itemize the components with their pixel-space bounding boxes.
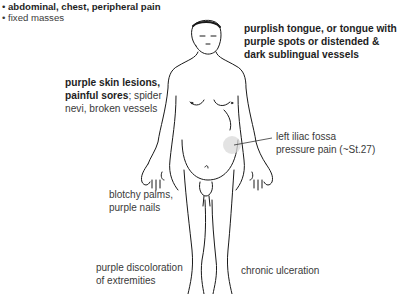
right-hand-outline	[141, 164, 164, 190]
iliac-highlight	[223, 136, 241, 154]
annotation-extremities: purple discoloration of extremities	[96, 262, 183, 287]
annotation-iliac: left iliac fossa pressure pain (~St.27)	[276, 131, 375, 156]
left-hand-outline	[250, 164, 273, 190]
top-list-item-masses: • fixed masses	[2, 12, 64, 24]
annotation-skin: purple skin lesions, painful sores; spid…	[65, 76, 162, 116]
annotation-ulceration: chronic ulceration	[241, 265, 319, 277]
annotation-tongue: purplish tongue, or tongue with purple s…	[244, 22, 397, 62]
top-list-item-pain: • abdominal, chest, peripheral pain	[2, 1, 161, 13]
annotation-palms: blotchy palms, purple nails	[109, 189, 173, 214]
legs-outline	[184, 170, 193, 294]
bullet-icon: •	[2, 12, 5, 23]
bullet-icon: •	[2, 1, 5, 12]
